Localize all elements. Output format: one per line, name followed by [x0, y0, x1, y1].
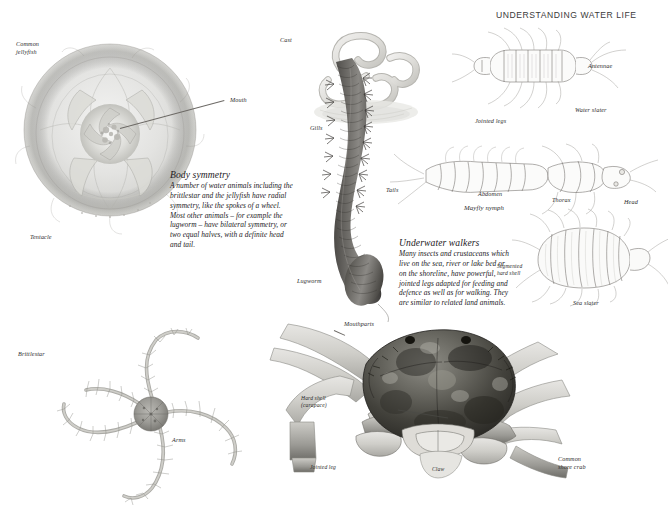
- label-head: Head: [624, 198, 638, 206]
- paragraph-body-symmetry: A number of water animals including the …: [170, 181, 294, 250]
- label-tentacle: Tentacle: [30, 233, 52, 241]
- label-common-shore-crab: Common shore crab: [558, 455, 586, 471]
- label-water-slater: Water slater: [575, 106, 607, 114]
- page-title: UNDERSTANDING WATER LIFE: [496, 10, 637, 20]
- book-page-spread: UNDERSTANDING WATER LIFE: [0, 0, 668, 509]
- label-jointed-leg: Jointed leg: [310, 464, 336, 471]
- sea-slater-illustration: [512, 216, 662, 306]
- label-arms: Arms: [172, 436, 186, 444]
- label-jointed-legs: Jointed legs: [475, 117, 506, 125]
- heading-underwater-walkers: Underwater walkers: [399, 237, 514, 248]
- label-cast: Cast: [280, 36, 292, 44]
- text-block-body-symmetry: Body symmetry A number of water animals …: [170, 169, 294, 250]
- label-common-jellyfish: Common jellyfish: [16, 40, 39, 56]
- label-lugworm: Lugworm: [297, 277, 322, 285]
- label-tails: Tails: [386, 186, 398, 194]
- brittlestar-illustration: [56, 330, 246, 505]
- lugworm-illustration: [318, 54, 408, 314]
- label-gills: Gills: [310, 124, 323, 132]
- label-hard-shell-carapace: Hard shell (carapace): [301, 395, 327, 409]
- label-antennae: Antennae: [588, 62, 612, 70]
- label-mouth: Mouth: [230, 96, 247, 104]
- heading-body-symmetry: Body symmetry: [170, 169, 294, 180]
- label-sea-slater: Sea slater: [573, 299, 599, 307]
- label-brittlestar: Brittlestar: [18, 350, 45, 358]
- label-mayfly-nymph: Mayfly nymph: [464, 204, 504, 213]
- label-thorax: Thorax: [552, 196, 571, 204]
- mayfly-nymph-illustration: [400, 148, 640, 218]
- label-claw: Claw: [432, 466, 444, 473]
- paragraph-underwater-walkers: Many insects and crustaceans which live …: [399, 249, 514, 308]
- text-block-underwater-walkers: Underwater walkers Many insects and crus…: [399, 237, 514, 308]
- label-abdomen: Abdomen: [478, 190, 502, 198]
